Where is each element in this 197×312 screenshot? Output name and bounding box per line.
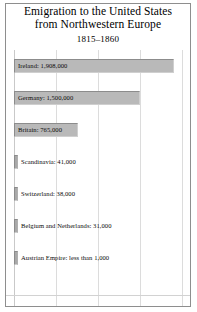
- bar-row: Britain: 765,000: [6, 118, 190, 150]
- chart-title-line-2: from Northwestern Europe: [6, 18, 190, 31]
- bar-label: Austrian Empire: less than 1,000: [21, 252, 109, 264]
- bar-label: Scandinavia: 41,000: [21, 156, 76, 168]
- chart-subtitle-date-range: 1815–1860: [6, 33, 190, 45]
- bar-label: Belgium and Netherlands: 31,000: [21, 220, 112, 232]
- bar-switzerland: [14, 187, 18, 201]
- bar-austrian-empire: [14, 251, 18, 265]
- bar-row: Austrian Empire: less than 1,000: [6, 246, 190, 278]
- emigration-bar-chart-figure: Emigration to the United States from Nor…: [0, 0, 197, 312]
- bar-series: Ireland: 1,908,000Germany: 1,500,000Brit…: [6, 50, 190, 306]
- bar-row: Scandinavia: 41,000: [6, 150, 190, 182]
- bar-row: Belgium and Netherlands: 31,000: [6, 214, 190, 246]
- plot-area: Ireland: 1,908,000Germany: 1,500,000Brit…: [6, 50, 190, 306]
- bar-row: Switzerland: 38,000: [6, 182, 190, 214]
- bar-label: Germany: 1,500,000: [18, 92, 73, 104]
- bar-belgium-and-netherlands: [14, 219, 18, 233]
- bar-label: Britain: 765,000: [18, 124, 62, 136]
- chart-title-line-1: Emigration to the United States: [6, 5, 190, 18]
- chart-title-block: Emigration to the United States from Nor…: [6, 5, 190, 45]
- bar-label: Ireland: 1,908,000: [18, 60, 67, 72]
- bar-row: Germany: 1,500,000: [6, 86, 190, 118]
- bar-label: Switzerland: 38,000: [21, 188, 75, 200]
- bar-row: Ireland: 1,908,000: [6, 54, 190, 86]
- bar-scandinavia: [14, 155, 18, 169]
